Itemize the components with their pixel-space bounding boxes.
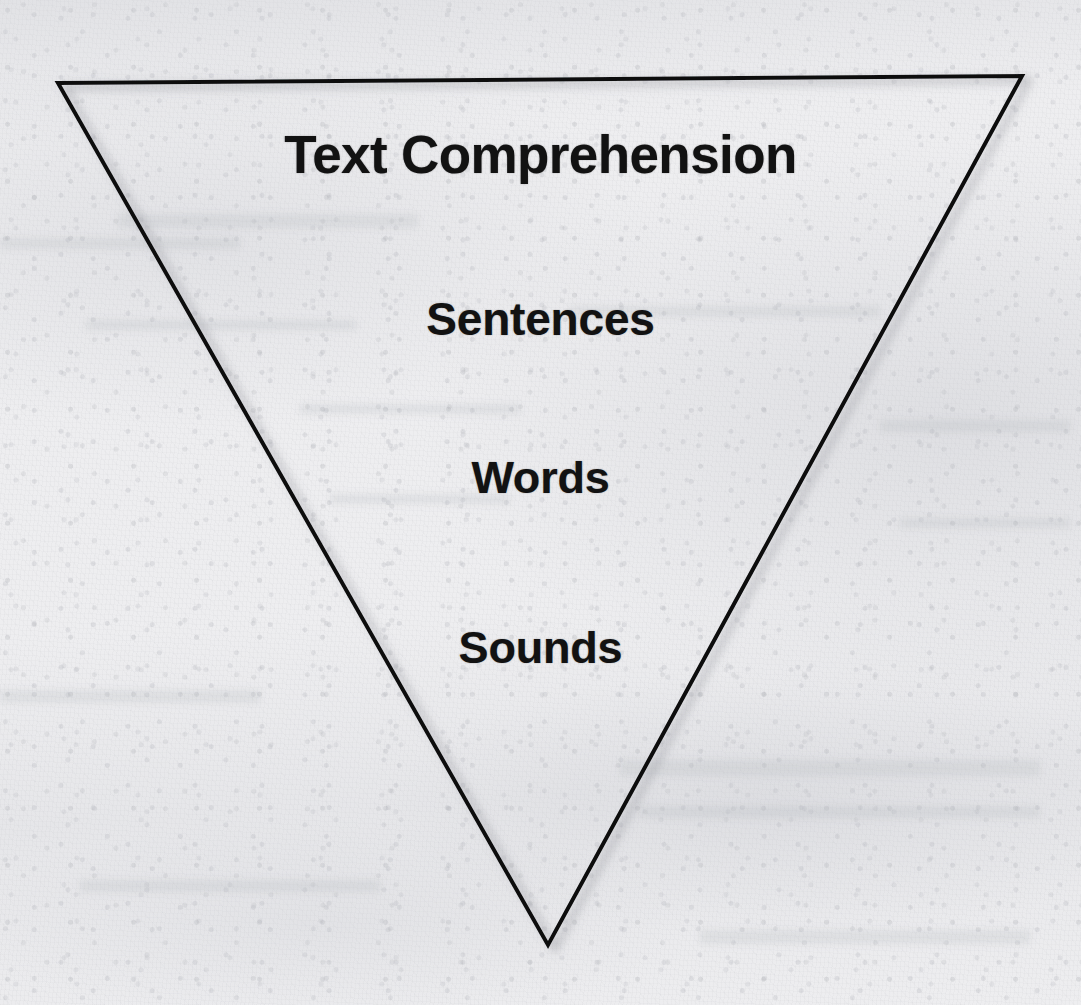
level-label-text-comprehension: Text Comprehension bbox=[0, 124, 1081, 185]
level-label-words: Words bbox=[0, 452, 1081, 504]
triangle-outline bbox=[58, 76, 1022, 945]
level-label-sentences: Sentences bbox=[0, 292, 1081, 346]
diagram-page: Text Comprehension Sentences Words Sound… bbox=[0, 0, 1081, 1005]
level-label-sounds: Sounds bbox=[0, 622, 1081, 674]
